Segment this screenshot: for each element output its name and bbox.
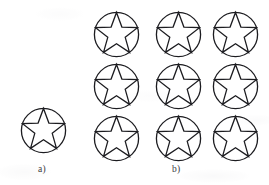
star-in-circle-icon [155, 11, 202, 58]
symbol-circle [94, 64, 138, 108]
star-in-circle-icon [20, 107, 67, 154]
star-in-circle-icon [93, 115, 140, 162]
symbol-circle [213, 116, 257, 160]
star-in-circle-icon [155, 115, 202, 162]
symbol-circle [156, 64, 200, 108]
panel-b-label: b) [172, 165, 180, 175]
symbol-circle [156, 12, 200, 56]
symbol-circle [213, 12, 257, 56]
star-in-circle-icon [155, 63, 202, 110]
star-in-circle-icon [212, 115, 259, 162]
star-in-circle-icon [212, 63, 259, 110]
star-in-circle-icon [212, 11, 259, 58]
symbol-circle [213, 64, 257, 108]
star-in-circle-icon [93, 63, 140, 110]
star-in-circle-icon [93, 11, 140, 58]
symbol-circle [156, 116, 200, 160]
symbol-circle [21, 108, 65, 152]
symbol-circle [94, 116, 138, 160]
panel-a-label: a) [38, 165, 46, 175]
figure-canvas: a) b) [0, 0, 269, 185]
symbol-circle [94, 12, 138, 56]
